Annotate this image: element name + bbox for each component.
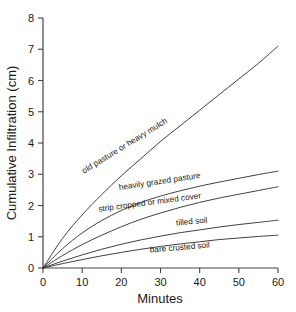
y-tick-label: 0 — [28, 262, 34, 274]
y-axis-ticks: 012345678 — [28, 12, 43, 274]
y-tick-label: 4 — [28, 137, 34, 149]
y-tick-label: 5 — [28, 106, 34, 118]
x-tick-label: 30 — [154, 276, 166, 288]
y-tick-label: 2 — [28, 200, 34, 212]
y-axis-title: Cumulative Infiltration (cm) — [4, 66, 19, 221]
x-tick-label: 0 — [40, 276, 46, 288]
y-tick-label: 7 — [28, 43, 34, 55]
x-tick-label: 60 — [272, 276, 284, 288]
x-tick-label: 20 — [115, 276, 127, 288]
x-axis-ticks: 0102030405060 — [40, 268, 284, 288]
chart-curves — [43, 46, 278, 268]
curve-label: strip cropped or mixed cover — [98, 191, 202, 213]
y-tick-label: 1 — [28, 231, 34, 243]
series-curve — [43, 46, 278, 268]
x-axis-title: Minutes — [137, 291, 183, 306]
x-tick-label: 40 — [194, 276, 206, 288]
y-tick-label: 8 — [28, 12, 34, 24]
cumulative-infiltration-line-chart: 012345678 0102030405060 old pasture or h… — [0, 0, 296, 312]
chart-curve-labels: old pasture or heavy mulchheavily grazed… — [80, 116, 210, 254]
chart-axes — [43, 18, 278, 268]
x-tick-label: 10 — [76, 276, 88, 288]
y-tick-label: 6 — [28, 75, 34, 87]
curve-label: bare crusted soil — [149, 240, 210, 254]
infiltration-chart-figure: 012345678 0102030405060 old pasture or h… — [0, 0, 296, 312]
x-tick-label: 50 — [233, 276, 245, 288]
y-tick-label: 3 — [28, 168, 34, 180]
curve-label: tilled soil — [176, 216, 208, 228]
